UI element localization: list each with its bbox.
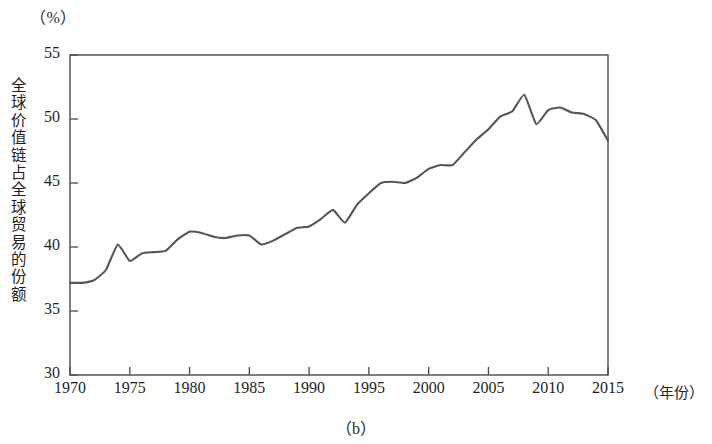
x-axis-tick-label: 1990 [281,379,337,397]
x-axis-tick-label: 2000 [401,379,457,397]
x-axis-tick-label: 1985 [221,379,277,397]
x-axis-tick-label: 2015 [580,379,636,397]
y-axis-tick-label: 40 [26,236,60,254]
data-series-line [70,95,608,283]
y-axis-tick-label: 35 [26,300,60,318]
chart-plot-area [0,0,712,444]
y-axis-tick-label: 50 [26,108,60,126]
x-axis-tick-label: 1970 [42,379,98,397]
x-axis-tick-label: 2005 [460,379,516,397]
y-axis-ticks [70,55,78,375]
data-series-group [70,95,608,283]
x-axis-tick-label: 1995 [341,379,397,397]
x-axis-tick-label: 1980 [162,379,218,397]
y-axis-tick-label: 55 [26,44,60,62]
x-axis-tick-label: 2010 [520,379,576,397]
figure-panel: （%） 全球价值链占全球贸易的份额 （年份） （b） 303540455055 … [0,0,712,444]
x-axis-tick-label: 1975 [102,379,158,397]
y-axis-tick-label: 45 [26,172,60,190]
x-axis-ticks [70,367,608,375]
